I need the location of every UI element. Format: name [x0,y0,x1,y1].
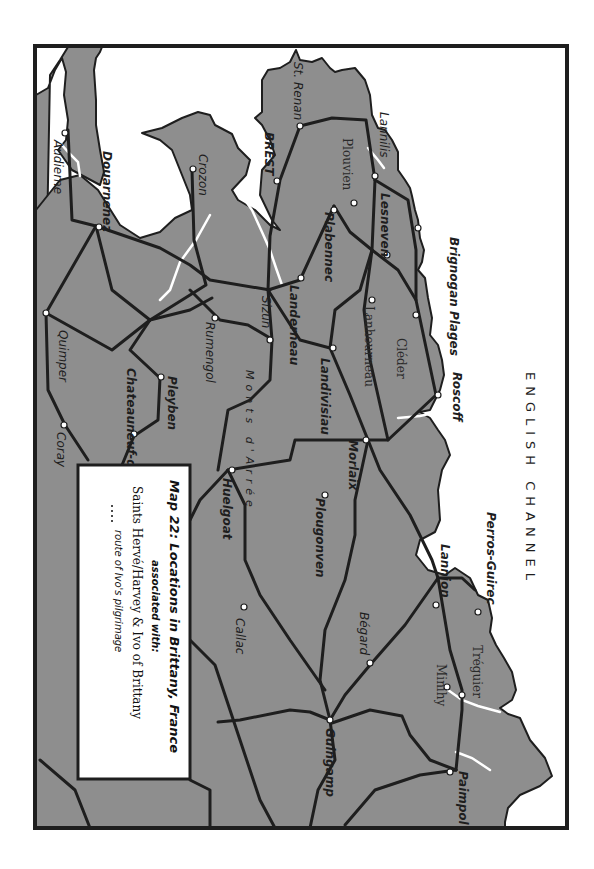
label-lanhourneau: Lanhourneau [362,306,376,387]
label-coray: Coray [54,432,68,468]
town-dot-st-renan [297,123,303,129]
label-perros-guirec: Perros-Guirec [484,512,498,605]
label-begard: Bégard [357,612,371,656]
label-guingamp: Guingamp [323,728,337,797]
label-morlaix: Morlaix [346,440,360,491]
town-dot-guingamp [327,717,333,723]
town-dot-landerneau [298,275,304,281]
label-quimper: Quimper [56,330,70,383]
brittany-map: St. Renan BREST Lannilis Plouvien Plaben… [0,0,594,869]
label-paimpol: Paimpol [456,771,470,826]
label-landivisiau: Landivisiau [318,358,332,435]
label-rumengol: Rumengol [203,322,217,384]
label-huelgoat: Huelgoat [220,478,234,541]
label-roscoff: Roscoff [450,372,464,422]
label-plouvien: Plouvien [340,138,354,191]
label-audierne: Audierne [51,139,65,194]
town-dot-rumengol [212,315,218,321]
label-treguier: Tréguier [470,645,484,698]
legend-route-label: route of Ivo's pilgrimage [113,530,124,652]
label-lesneven: Lesneven [378,193,392,257]
town-dot-perros-guirec [475,609,481,615]
label-pleyben: Pleyben [165,376,179,430]
legend-title: Map 22: Locations in Brittany, France [167,480,182,753]
town-dot-quimper [43,310,49,316]
town-dot-paimpol [447,769,453,775]
label-minihy: Minihy [434,664,448,706]
town-dot-lanhourneau [369,297,375,303]
town-dot-morlaix [363,437,369,443]
town-dot-coray [61,422,67,428]
legend-saints: Saints Hervé/Harvey & Ivo of Brittany [130,486,144,719]
label-sizun: Sizun [259,296,273,328]
town-dot-lannilis [372,173,378,179]
label-brignogan: Brignogan Plages [447,237,461,356]
town-dot-pleyben [158,374,164,380]
label-callac: Callac [233,618,247,655]
mountains-label-monts-darree: Monts d'Arrée [243,370,256,512]
legend-subtitle: associated with: [150,560,161,652]
town-dot-begard [367,660,373,666]
town-dot-treguier [459,692,465,698]
label-cleder: Cléder [394,338,408,379]
town-dot-sizun [267,337,273,343]
town-dot-lannion [433,602,439,608]
label-crozon: Crozon [196,154,210,196]
sea-label-english-channel: ENGLISH CHANNEL [523,372,538,586]
town-dot-roscoff [435,392,441,398]
town-dot-cleder [413,312,419,318]
town-dot-audierne [62,130,68,136]
label-landerneau: Landerneau [287,285,301,366]
label-plabennec: Plabennec [322,212,336,282]
label-douarnenez: Douarnenez [100,151,114,233]
label-lannilis: Lannilis [377,112,391,158]
label-brest: BREST [262,132,276,176]
town-dot-plouvien [351,200,357,206]
town-dot-brest [274,178,280,184]
town-dot-huelgoat [229,467,235,473]
town-dot-callac [241,604,247,610]
label-st-renan: St. Renan [291,62,305,120]
label-lannion: Lannion [438,544,452,598]
label-plougonven: Plougonven [313,498,327,578]
town-dot-brignogan [415,225,421,231]
legend: Map 22: Locations in Brittany, France as… [78,465,190,779]
town-dot-landivisiau [330,345,336,351]
town-dot-crozon [190,166,196,172]
